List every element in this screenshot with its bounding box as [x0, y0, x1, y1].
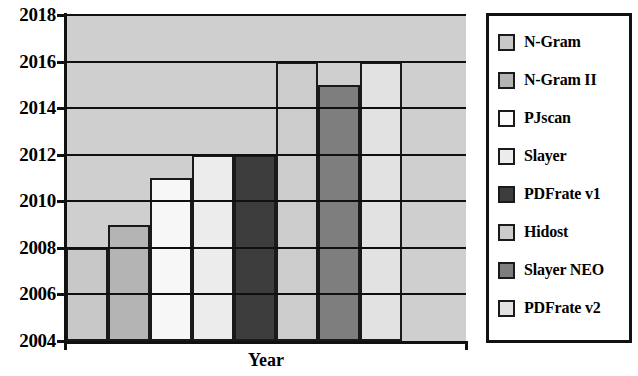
legend-swatch-icon — [498, 148, 515, 165]
bar — [150, 178, 192, 341]
y-axis-tickmark — [57, 154, 66, 157]
plot-area — [66, 15, 466, 341]
legend-item: N-Gram — [489, 23, 629, 61]
y-axis-tick-label: 2010 — [19, 190, 56, 212]
y-axis-tickmark — [57, 340, 66, 343]
legend-item: PJscan — [489, 99, 629, 137]
legend-item: Hidost — [489, 213, 629, 251]
y-axis-tick-label: 2006 — [19, 283, 56, 305]
legend-item-label: N-Gram — [524, 33, 581, 51]
bar — [360, 62, 402, 341]
y-axis-labels: 20182016201420122010200820062004 — [0, 0, 56, 376]
legend-item-label: PDFrate v1 — [524, 185, 601, 203]
legend-swatch-icon — [498, 224, 515, 241]
y-axis-tick-label: 2016 — [19, 51, 56, 73]
legend-item-label: N-Gram II — [524, 71, 596, 89]
y-axis-tick-label: 2004 — [19, 330, 56, 352]
legend-item: PDFrate v1 — [489, 175, 629, 213]
legend-item-label: Hidost — [524, 223, 568, 241]
bar — [108, 225, 150, 341]
chart-figure: 20182016201420122010200820062004 Year N-… — [0, 0, 638, 376]
y-axis-tick-label: 2014 — [19, 97, 56, 119]
y-axis-tickmark — [57, 61, 66, 64]
y-axis-tick-label: 2018 — [19, 4, 56, 26]
legend-swatch-icon — [498, 34, 515, 51]
legend-item-label: Slayer NEO — [524, 261, 604, 279]
y-axis-tickmark — [57, 200, 66, 203]
legend-swatch-icon — [498, 262, 515, 279]
legend-item: Slayer NEO — [489, 251, 629, 289]
legend-box: N-GramN-Gram IIPJscanSlayerPDFrate v1Hid… — [486, 13, 632, 343]
y-axis-tickmark — [57, 293, 66, 296]
bar — [66, 248, 108, 341]
y-axis-tickmark — [57, 107, 66, 110]
legend-swatch-icon — [498, 186, 515, 203]
legend-item-label: PJscan — [524, 109, 571, 127]
y-axis-tick-label: 2008 — [19, 237, 56, 259]
legend-swatch-icon — [498, 72, 515, 89]
bar — [318, 85, 360, 341]
x-axis-title: Year — [66, 350, 466, 371]
legend-item-label: PDFrate v2 — [524, 299, 601, 317]
legend-item: PDFrate v2 — [489, 289, 629, 327]
legend-item-label: Slayer — [524, 147, 566, 165]
x-axis-right-cap — [465, 341, 468, 350]
legend-item: N-Gram II — [489, 61, 629, 99]
bar — [276, 62, 318, 341]
y-axis-tickmark — [57, 14, 66, 17]
legend-swatch-icon — [498, 300, 515, 317]
x-axis-line — [64, 341, 468, 344]
bar — [192, 155, 234, 341]
legend-item: Slayer — [489, 137, 629, 175]
y-axis-tick-label: 2012 — [19, 144, 56, 166]
y-axis-tickmark — [57, 247, 66, 250]
bar — [234, 155, 276, 341]
legend-swatch-icon — [498, 110, 515, 127]
